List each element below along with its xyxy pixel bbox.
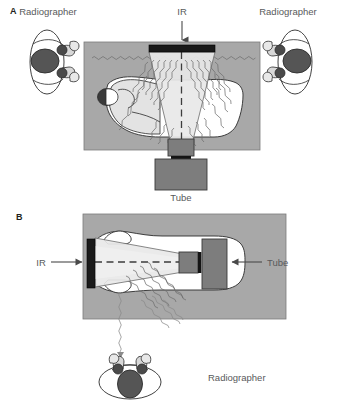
- radiographer-left-elbow-lower: [57, 68, 67, 78]
- ir-label-b: IR: [36, 257, 46, 268]
- image-receptor-b: [87, 239, 95, 288]
- radiographer-left-label: Radiographer: [19, 6, 77, 17]
- panel-b-label: B: [16, 212, 23, 222]
- radiographer-bottom-hand-right: [141, 354, 151, 363]
- ir-label-a: IR: [177, 6, 187, 17]
- tube-collimator-b: [179, 252, 198, 273]
- radiographer-left-hand-lower: [70, 72, 79, 82]
- radiographer-right-label: Radiographer: [259, 6, 317, 17]
- radiographer-left-head: [31, 49, 59, 73]
- radiographer-right-head: [283, 49, 311, 73]
- tube-housing-b: [202, 239, 227, 289]
- tube-port-b: [198, 252, 201, 273]
- radiographer-bottom-label: Radiographer: [208, 372, 266, 383]
- radiographer-bottom-head: [118, 370, 143, 398]
- radiographer-left-hand-upper: [70, 41, 79, 51]
- radiography-scatter-figure: A Radiographer Radiographer IR: [0, 0, 339, 413]
- radiographer-bottom-hand-left: [109, 354, 119, 363]
- radiographer-bottom-elbow-left: [113, 364, 123, 374]
- radiographer-bottom-elbow-right: [137, 364, 147, 374]
- radiographer-right-hand-lower: [263, 72, 272, 82]
- tube-label-b: Tube: [267, 257, 288, 268]
- image-receptor-a: [149, 45, 215, 52]
- figure-canvas: A Radiographer Radiographer IR: [0, 0, 339, 413]
- tube-housing-a: [155, 159, 207, 190]
- tube-collimator-a: [168, 139, 194, 156]
- tube-label-a: Tube: [170, 192, 191, 203]
- radiographer-right-elbow-lower: [275, 68, 285, 78]
- radiographer-right-elbow-upper: [275, 45, 285, 55]
- radiographer-left-elbow-upper: [57, 45, 67, 55]
- radiographer-right-hand-upper: [263, 41, 272, 51]
- panel-a-label: A: [10, 6, 17, 16]
